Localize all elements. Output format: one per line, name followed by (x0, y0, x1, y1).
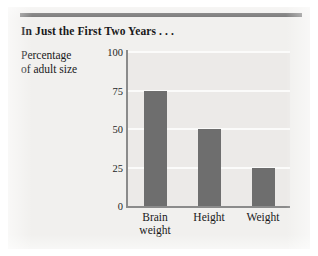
x-tick-label-line: Brain (139, 211, 170, 224)
x-tick-label-line: Weight (247, 211, 280, 224)
y-axis-caption-line-2: of adult size (21, 63, 77, 77)
x-tick-label-weight: Weight (247, 211, 280, 224)
y-tick-label-50: 50 (113, 124, 124, 135)
y-tick-label-75: 75 (113, 85, 124, 96)
x-tick-label-line: Height (193, 211, 224, 224)
y-axis-caption: Percentage of adult size (21, 49, 77, 76)
x-tick-label-line: weight (139, 224, 170, 237)
y-tick-label-100: 100 (107, 47, 123, 58)
bar-weight (252, 168, 275, 207)
gridline-100 (128, 51, 290, 53)
bar-brain-weight (144, 91, 167, 207)
figure-panel: In Just the First Two Years . . . Percen… (8, 7, 310, 249)
y-axis-caption-line-1: Percentage (21, 49, 77, 63)
x-tick-label-height: Height (193, 211, 224, 224)
x-axis-line (126, 206, 290, 208)
y-tick-label-0: 0 (118, 201, 123, 212)
plot-area: 0255075100 BrainweightHeightWeight (128, 52, 290, 206)
chart-title: In Just the First Two Years . . . (21, 25, 174, 37)
y-tick-label-25: 25 (113, 162, 124, 173)
top-rule (20, 13, 302, 17)
bar-height (198, 129, 221, 206)
x-tick-label-brain-weight: Brainweight (139, 211, 170, 236)
